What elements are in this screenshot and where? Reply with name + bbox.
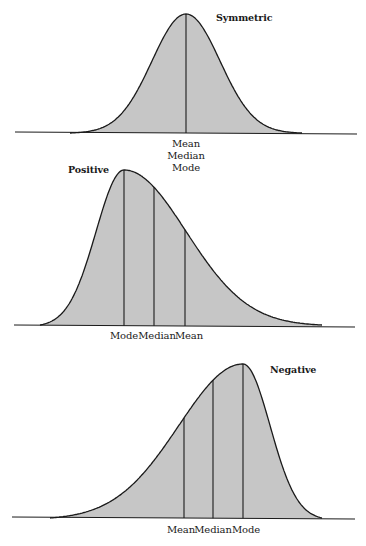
symmetric-distribution [15, 14, 357, 134]
symmetric-label-mode: Mode [172, 162, 200, 173]
positive-label-median: Median [138, 330, 176, 341]
positive-distribution [14, 170, 355, 327]
symmetric-label-mean: Mean [172, 138, 200, 149]
negative-curve-fill [50, 364, 322, 519]
positive-label-mean: Mean [175, 330, 203, 341]
negative-title: Negative [270, 364, 316, 375]
symmetric-title: Symmetric [216, 12, 272, 23]
skewness-diagram [0, 0, 366, 546]
symmetric-label-median: Median [167, 150, 205, 161]
negative-label-mean: Mean [167, 524, 195, 535]
negative-distribution [12, 364, 355, 519]
negative-label-mode: Mode [232, 524, 260, 535]
positive-title: Positive [68, 164, 109, 175]
positive-label-mode: Mode [110, 330, 138, 341]
negative-label-median: Median [194, 524, 232, 535]
positive-curve-fill [40, 170, 322, 327]
